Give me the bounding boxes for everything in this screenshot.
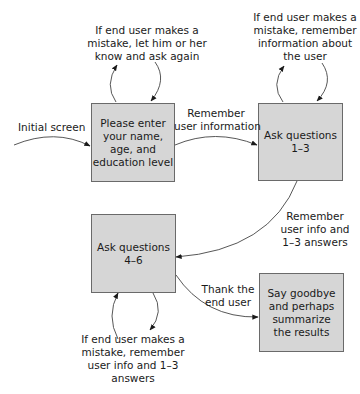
node-ask-4-6: Ask questions 4–6 <box>91 214 176 293</box>
node-goodbye: Say goodbye and perhaps summarize the re… <box>259 273 344 352</box>
label-text: Thank the <box>200 283 256 296</box>
node-text: Please enter <box>93 117 173 130</box>
label-text: the user <box>250 50 360 63</box>
label-text: user info and <box>270 223 360 236</box>
label-loop-ask13: If end user makes a mistake, remember in… <box>250 11 360 63</box>
label-text: answers <box>78 372 188 385</box>
node-enter-info: Please enter your name, age, and educati… <box>91 103 175 182</box>
label-text: information about <box>250 37 360 50</box>
label-text: mistake, let him or her <box>82 37 212 50</box>
label-text: user info and 1–3 <box>78 359 188 372</box>
node-text: age, and <box>93 143 173 156</box>
node-text: summarize <box>267 313 335 326</box>
node-text: the results <box>267 326 335 339</box>
node-text: your name, <box>93 130 173 143</box>
label-remember-user-info: Remember user information <box>174 107 258 133</box>
label-initial-screen: Initial screen <box>18 121 85 134</box>
node-text: education level <box>93 156 173 169</box>
label-text: If end user makes a <box>82 24 212 37</box>
label-text: user information <box>174 120 258 133</box>
label-text: mistake, remember <box>78 346 188 359</box>
node-text: 1–3 <box>264 142 337 155</box>
label-thank-user: Thank the end user <box>200 283 256 309</box>
label-text: mistake, remember <box>250 24 360 37</box>
label-text: Remember <box>174 107 258 120</box>
node-text: Say goodbye <box>267 287 335 300</box>
label-text: If end user makes a <box>250 11 360 24</box>
label-text: Initial screen <box>18 121 85 134</box>
label-text: If end user makes a <box>78 333 188 346</box>
label-loop-ask46: If end user makes a mistake, remember us… <box>78 333 188 385</box>
label-loop-enter: If end user makes a mistake, let him or … <box>82 24 212 63</box>
flowchart-diagram: Please enter your name, age, and educati… <box>0 0 360 394</box>
label-text: Remember <box>270 210 360 223</box>
label-text: know and ask again <box>82 50 212 63</box>
node-ask-1-3: Ask questions 1–3 <box>258 103 343 181</box>
label-remember-answers: Remember user info and 1–3 answers <box>270 210 360 249</box>
node-text: 4–6 <box>97 254 170 267</box>
node-text: and perhaps <box>267 300 335 313</box>
node-text: Ask questions <box>264 129 337 142</box>
node-text: Ask questions <box>97 241 170 254</box>
initial-arrow <box>14 137 90 146</box>
label-text: end user <box>200 296 256 309</box>
label-text: 1–3 answers <box>270 236 360 249</box>
